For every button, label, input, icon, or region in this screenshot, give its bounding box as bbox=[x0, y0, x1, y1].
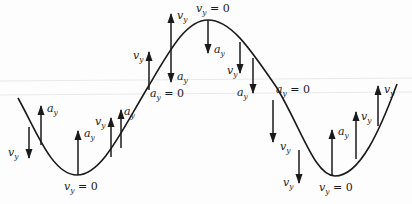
vy-label: vy bbox=[283, 176, 294, 191]
ay-label: ay bbox=[124, 105, 136, 120]
ay-label: ay bbox=[338, 125, 350, 140]
ay-label: ay bbox=[177, 70, 189, 85]
ay-label: ay bbox=[214, 43, 226, 58]
diagram-canvas: vyayayvyayvyvyayayvyayvyvyayvyvy vy = 0v… bbox=[0, 0, 412, 204]
vy-label: vy bbox=[95, 115, 106, 130]
ay0-left-inflection-annotation: ay = 0 bbox=[150, 87, 184, 102]
vy-label: vy bbox=[8, 146, 19, 161]
vy-label: vy bbox=[361, 110, 372, 125]
vy-label: vy bbox=[384, 83, 395, 98]
vy-label: vy bbox=[133, 49, 144, 64]
ay-label: ay bbox=[84, 127, 96, 142]
vector-arrows bbox=[29, 14, 378, 183]
vy-label: vy bbox=[280, 140, 291, 155]
vy0-right-min-annotation: vy = 0 bbox=[319, 181, 353, 196]
sine-wave-figure: vyayayvyayvyvyayayvyayvyvyayvyvy vy = 0v… bbox=[0, 0, 412, 204]
ay0-right-inflection-annotation: ay = 0 bbox=[276, 83, 310, 98]
vector-labels: vyayayvyayvyvyayayvyayvyvyayvyvy bbox=[8, 9, 395, 191]
vy0-left-min-annotation: vy = 0 bbox=[64, 180, 98, 195]
ay-label: ay bbox=[47, 102, 59, 117]
ay-label: ay bbox=[237, 86, 249, 101]
scan-lines bbox=[0, 78, 412, 95]
vy-label: vy bbox=[177, 9, 188, 24]
vy-label: vy bbox=[227, 64, 238, 79]
vy0-peak-annotation: vy = 0 bbox=[196, 2, 230, 17]
